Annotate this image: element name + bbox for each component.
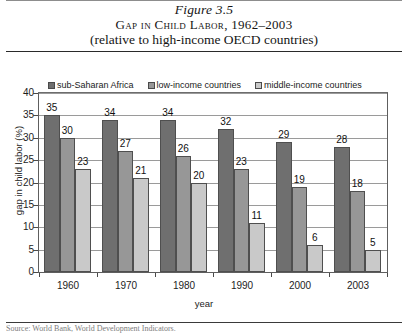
footer-divider-rule (6, 322, 402, 323)
x-tick-label-1960: 1960 (43, 280, 93, 291)
y-tick-label-40: 40 (4, 88, 34, 98)
x-tick-label-1990: 1990 (217, 280, 267, 291)
y-tick-mark-20 (33, 183, 38, 184)
legend-label-1: low-income countries (157, 81, 242, 90)
x-tick-label-1970: 1970 (101, 280, 151, 291)
bar-1960-series0[interactable] (44, 115, 60, 272)
y-tick-label-20: 20 (4, 178, 34, 188)
legend-item-0[interactable]: sub-Saharan Africa (48, 81, 134, 90)
y-tick-mark-10 (33, 227, 38, 228)
bar-value-1970-series0: 34 (97, 108, 123, 118)
bar-value-2000-series0: 29 (271, 130, 297, 140)
x-tick-mark-2003 (329, 273, 330, 277)
x-tick-label-2000: 2000 (275, 280, 325, 291)
chart-legend: sub-Saharan Africalow-income countriesmi… (38, 78, 388, 93)
y-tick-mark-35 (33, 115, 38, 116)
bar-2000-series0[interactable] (276, 142, 292, 272)
y-tick-mark-15 (33, 205, 38, 206)
bar-1990-series0[interactable] (218, 129, 234, 272)
y-tick-mark-0 (33, 272, 38, 273)
y-tick-mark-25 (33, 160, 38, 161)
bar-1960-series2[interactable] (75, 169, 91, 272)
legend-item-2[interactable]: middle-income countries (255, 81, 362, 90)
bar-2003-series2[interactable] (365, 250, 381, 272)
x-tick-mark-1990 (213, 273, 214, 277)
bar-value-1960-series2: 23 (70, 157, 96, 167)
y-tick-label-10: 10 (4, 222, 34, 232)
y-axis-title: gap in child labor (%) (13, 101, 24, 241)
bar-value-1980-series0: 34 (155, 108, 181, 118)
x-tick-mark-1980 (155, 273, 156, 277)
bar-2000-series2[interactable] (307, 245, 323, 272)
bar-value-2000-series2: 6 (302, 233, 328, 243)
y-tick-label-5: 5 (4, 245, 34, 255)
bar-value-1990-series2: 11 (244, 211, 270, 221)
figure-header: Figure 3.5 Gap in Child Labor, 1962–2003… (0, 0, 408, 52)
x-tick-label-2003: 2003 (333, 280, 383, 291)
bar-value-2003-series1: 18 (345, 179, 371, 189)
top-divider-rule (6, 0, 402, 1)
bar-2000-series1[interactable] (292, 187, 308, 272)
bar-value-2000-series1: 19 (287, 175, 313, 185)
legend-swatch-icon-1 (148, 82, 155, 89)
y-tick-mark-30 (33, 138, 38, 139)
bar-value-1980-series2: 20 (186, 171, 212, 181)
y-tick-label-25: 25 (4, 155, 34, 165)
x-axis-title: year (0, 298, 408, 309)
y-tick-label-35: 35 (4, 110, 34, 120)
x-tick-mark-end (387, 273, 388, 277)
x-tick-mark-1970 (97, 273, 98, 277)
x-tick-mark-1960 (39, 273, 40, 277)
bar-chart: sub-Saharan Africalow-income countriesmi… (0, 70, 408, 310)
bar-value-1990-series0: 32 (213, 117, 239, 127)
bar-2003-series1[interactable] (350, 191, 366, 272)
bar-1990-series2[interactable] (249, 223, 265, 272)
bar-value-1990-series1: 23 (229, 157, 255, 167)
legend-label-0: sub-Saharan Africa (57, 81, 134, 90)
header-divider-rule (6, 51, 402, 52)
x-axis-ticks (39, 273, 387, 278)
legend-label-2: middle-income countries (264, 81, 362, 90)
y-tick-label-15: 15 (4, 200, 34, 210)
bar-value-1960-series1: 30 (55, 126, 81, 136)
bar-value-1980-series1: 26 (171, 144, 197, 154)
bar-value-2003-series2: 5 (360, 238, 386, 248)
legend-swatch-icon-0 (48, 82, 55, 89)
bar-value-2003-series0: 28 (329, 135, 355, 145)
y-tick-mark-40 (33, 93, 38, 94)
figure-title: Gap in Child Labor, 1962–2003 (0, 17, 408, 32)
y-tick-label-30: 30 (4, 133, 34, 143)
x-tick-label-1980: 1980 (159, 280, 209, 291)
bar-value-1960-series0: 35 (39, 103, 65, 113)
figure-number: Figure 3.5 (0, 2, 408, 17)
y-tick-mark-5 (33, 250, 38, 251)
bar-2003-series0[interactable] (334, 147, 350, 272)
bar-value-1970-series2: 21 (128, 166, 154, 176)
bar-1970-series2[interactable] (133, 178, 149, 272)
plot-bars: 3530233427213426203223112919628185 (39, 93, 387, 272)
bar-1980-series2[interactable] (191, 183, 207, 273)
figure-subtitle: (relative to high-income OECD countries) (0, 32, 408, 48)
legend-swatch-icon-2 (255, 82, 262, 89)
bar-value-1970-series1: 27 (113, 139, 139, 149)
legend-item-1[interactable]: low-income countries (148, 81, 242, 90)
x-tick-mark-2000 (271, 273, 272, 277)
y-tick-label-0: 0 (4, 267, 34, 277)
source-note: Source: World Bank, World Development In… (6, 324, 402, 333)
